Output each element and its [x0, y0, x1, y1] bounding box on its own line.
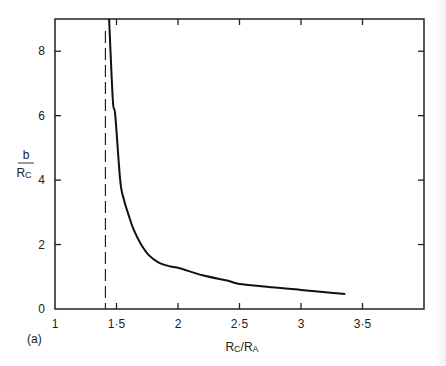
y-axis-label: b RC: [16, 148, 34, 180]
data-curve: [109, 19, 345, 294]
x-tick-label: 1·5: [108, 317, 126, 331]
x-tick-label: 2·5: [231, 317, 249, 331]
y-label-numerator: b: [23, 148, 30, 162]
x-axis-ticks: 11·522·533·5: [52, 19, 372, 331]
page-edge-shadow: [436, 0, 446, 366]
y-tick-label: 8: [38, 44, 45, 58]
x-tick-label: 3·5: [354, 317, 372, 331]
x-axis-label: RC/RA: [225, 340, 258, 354]
y-tick-label: 4: [38, 173, 45, 187]
y-tick-label: 6: [38, 109, 45, 123]
y-label-denominator: RC: [16, 166, 32, 180]
x-tick-label: 1: [52, 317, 59, 331]
x-tick-label: 3: [298, 317, 305, 331]
y-tick-label: 0: [38, 302, 45, 316]
y-tick-label: 2: [38, 238, 45, 252]
x-label-text: RC/RA: [225, 340, 258, 354]
chart: 11·522·533·5 02468 b RC RC/RA (a): [0, 0, 446, 366]
y-axis-ticks: 02468: [38, 44, 424, 316]
x-tick-label: 2: [175, 317, 182, 331]
panel-label: (a): [27, 332, 42, 346]
